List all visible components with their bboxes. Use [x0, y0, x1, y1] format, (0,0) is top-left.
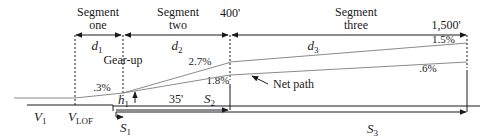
segment-three-label-line2: three	[344, 18, 368, 32]
screen-height-label: 35'	[169, 92, 183, 106]
segment-one-label-line2: one	[89, 18, 106, 32]
gear-up-label: Gear-up	[103, 53, 142, 67]
gross-flight-path	[14, 43, 467, 98]
segment-three-label-line1: Segment	[335, 5, 378, 19]
d2-label: d2	[172, 38, 183, 55]
vlof-label: VLOF	[68, 109, 93, 126]
d1-label: d1	[92, 38, 103, 55]
segment-one-label-line1: Segment	[77, 5, 120, 19]
s3-label: S3	[367, 121, 379, 138]
altitude-1500-label: 1,500'	[431, 18, 460, 32]
ground-gradient: .3%	[93, 81, 110, 93]
segment-two-label-line2: two	[169, 18, 187, 32]
h1-label: h1	[118, 92, 129, 109]
v1-label: V1	[34, 109, 46, 126]
segment-three-gross-gradient: 1.5%	[432, 33, 455, 45]
takeoff-segments-diagram: Segment one Segment two 400' Segment thr…	[0, 0, 480, 139]
d3-label: d3	[308, 38, 320, 55]
s2-label: S2	[204, 91, 215, 108]
altitude-400-label: 400'	[220, 6, 240, 20]
s1-label: S1	[120, 120, 131, 137]
net-path-label: Net path	[273, 77, 314, 91]
segment-two-gross-gradient: 2.7%	[189, 55, 212, 67]
segment-two-label-line1: Segment	[157, 5, 200, 19]
net-path-pointer-arrow	[252, 76, 268, 84]
